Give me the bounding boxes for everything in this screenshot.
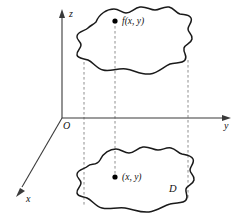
domain-region-label: D xyxy=(169,184,177,195)
domain-point-label: (x, y) xyxy=(122,173,142,183)
x-axis-label: x xyxy=(26,194,30,204)
math-diagram: z y x O f(x, y) (x, y) D xyxy=(0,0,239,216)
origin-label: O xyxy=(63,121,70,131)
surface-point-label: f(x, y) xyxy=(122,17,144,27)
diagram-canvas xyxy=(0,0,239,216)
y-axis-label: y xyxy=(224,121,228,131)
x-axis-arrowhead xyxy=(16,188,25,197)
surface-point-dot xyxy=(112,18,117,23)
domain-point-dot xyxy=(112,174,117,179)
x-axis xyxy=(22,118,62,187)
z-axis-label: z xyxy=(69,9,73,19)
z-axis-arrowhead xyxy=(59,9,65,18)
